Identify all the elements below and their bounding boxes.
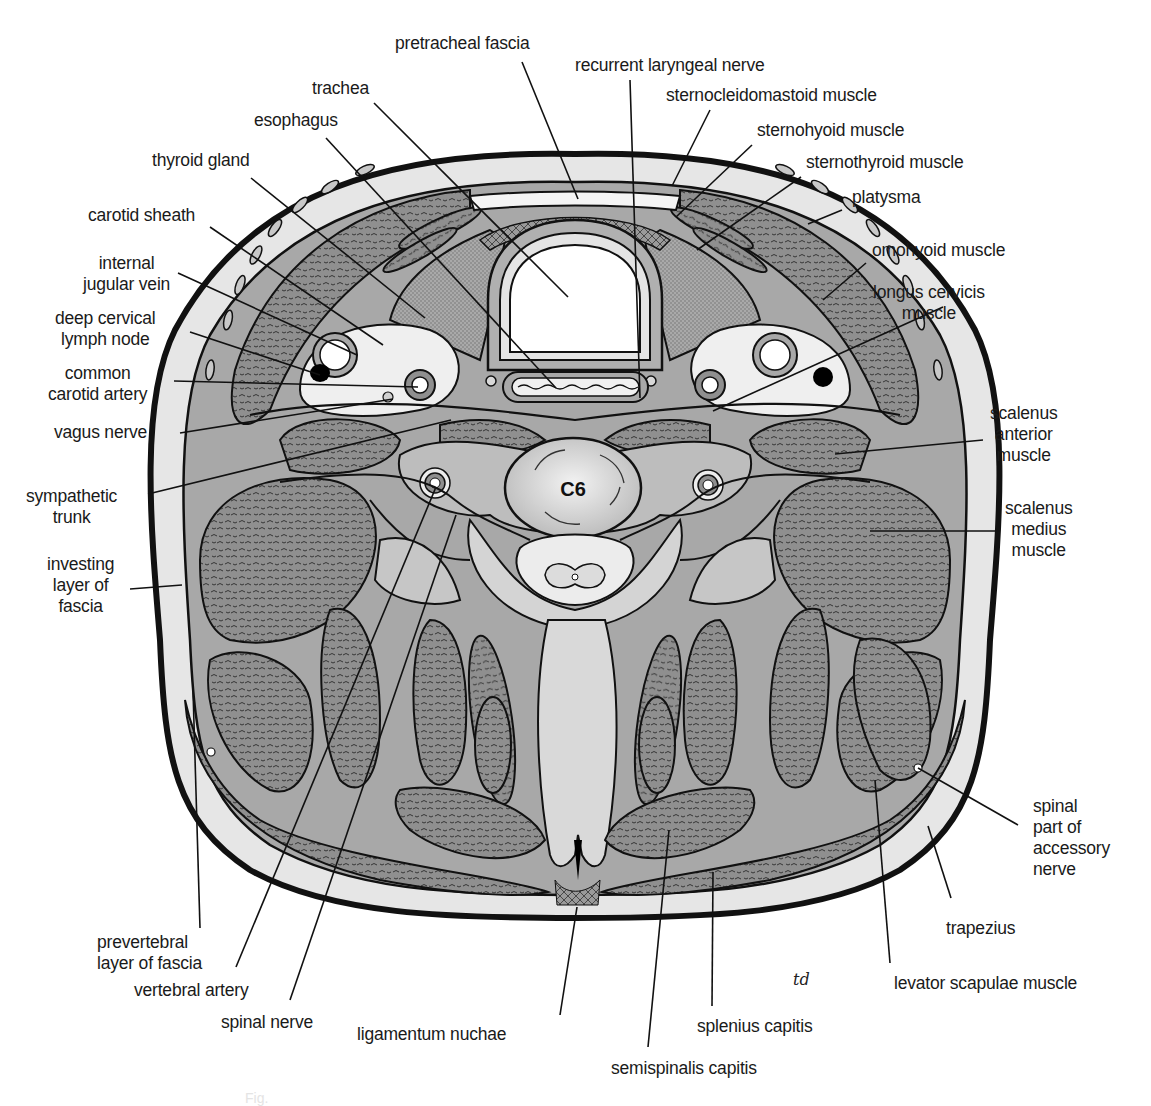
label-esophagus: esophagus: [254, 110, 338, 131]
label-investing-layer-of-fascia: investinglayer offascia: [47, 554, 114, 617]
label-vagus-nerve: vagus nerve: [54, 422, 147, 443]
vertebra-label: C6: [560, 478, 586, 500]
label-omohyoid-muscle: omohyoid muscle: [872, 240, 1005, 261]
label-pretracheal-fascia: pretracheal fascia: [395, 33, 530, 54]
label-thyroid-gland: thyroid gland: [152, 150, 250, 171]
label-trachea: trachea: [312, 78, 369, 99]
label-sternohyoid-muscle: sternohyoid muscle: [757, 120, 904, 141]
label-spinal-part-of-accessory-nerve: spinalpart ofaccessorynerve: [1033, 796, 1110, 880]
artist-signature: td: [793, 970, 810, 989]
label-prevertebral-layer-of-fascia: prevertebrallayer of fascia: [97, 932, 202, 974]
label-sternothyroid-muscle: sternothyroid muscle: [806, 152, 963, 173]
label-deep-cervical-lymph-node: deep cervicallymph node: [55, 308, 156, 350]
label-platysma: platysma: [852, 187, 920, 208]
label-recurrent-laryngeal-nerve: recurrent laryngeal nerve: [575, 55, 765, 76]
label-scalenus-medius-muscle: scalenusmediusmuscle: [1005, 498, 1072, 561]
esophagus: [503, 372, 648, 402]
label-splenius-capitis: splenius capitis: [697, 1016, 812, 1037]
ligamentum-nuchae: [538, 620, 616, 866]
carotid-sheath-left: [300, 325, 459, 416]
label-carotid-sheath: carotid sheath: [88, 205, 195, 226]
label-sternocleidomastoid-muscle: sternocleidomastoid muscle: [666, 85, 877, 106]
label-spinal-nerve: spinal nerve: [221, 1012, 313, 1033]
label-trapezius: trapezius: [946, 918, 1015, 939]
leader-line-splenius-capitis: [712, 872, 713, 1006]
label-scalenus-anterior-muscle: scalenusanteriormuscle: [990, 403, 1057, 466]
label-levator-scapulae-muscle: levator scapulae muscle: [894, 973, 1077, 994]
label-sympathetic-trunk: sympathetictrunk: [26, 486, 117, 528]
figure-caption-faded: Fig.: [245, 1090, 268, 1106]
label-common-carotid-artery: commoncarotid artery: [48, 363, 147, 405]
leader-line-ligamentum-nuchae: [560, 907, 577, 1015]
label-semispinalis-capitis: semispinalis capitis: [611, 1058, 757, 1079]
label-ligamentum-nuchae: ligamentum nuchae: [357, 1024, 506, 1045]
label-vertebral-artery: vertebral artery: [134, 980, 248, 1001]
label-longus-cervicis-muscle: longus cervicismuscle: [873, 282, 985, 324]
label-internal-jugular-vein: internaljugular vein: [83, 253, 170, 295]
